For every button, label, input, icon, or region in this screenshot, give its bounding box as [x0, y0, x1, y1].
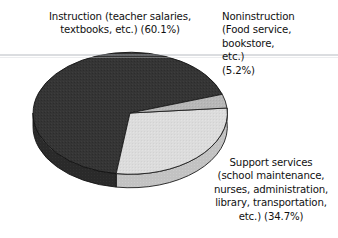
pie-label-support-services: Support services (school maintenance, nu… — [205, 156, 337, 223]
pie-top-faces — [33, 52, 227, 174]
pie-label-instruction: Instruction (teacher salaries, textbooks… — [26, 10, 214, 37]
pie-label-noninstruction: Noninstruction (Food service, bookstore,… — [222, 10, 334, 77]
pie-chart-figure: Instruction (teacher salaries, textbooks… — [0, 0, 338, 238]
